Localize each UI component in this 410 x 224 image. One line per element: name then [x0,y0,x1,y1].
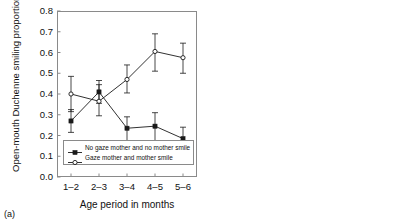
y-tick-label: 0.4 [40,89,53,99]
x-tick-label: 3–4 [119,182,135,192]
panel-a: Open-mouth Duchenne smiling proportion 0… [0,0,205,224]
y-tick-label: 0.1 [40,152,53,162]
panel-a-legend: No gaze mother and no mother smileGaze m… [63,140,194,165]
y-tick-label: 0.0 [40,172,53,182]
x-tick-label: 2–3 [91,182,107,192]
legend-item: Gaze mother and mother smile [67,153,190,162]
y-tick-label: 0.6 [40,48,53,58]
x-tick-label: 5–6 [175,182,191,192]
panel-a-caption: (a) [4,209,15,219]
legend-item-label: Gaze mother and mother smile [83,154,173,161]
y-tick-label: 0.8 [40,6,53,16]
legend-marker-filled-square-icon [67,143,83,152]
legend-item-label: No gaze mother and no mother smile [83,144,190,151]
y-tick-label: 0.5 [40,69,53,79]
panel-a-x-axis-label: Age period in months [57,199,197,210]
figure: Open-mouth Duchenne smiling proportion 0… [0,0,410,224]
y-tick-label: 0.3 [40,110,53,120]
y-tick-label: 0.7 [40,27,53,37]
panel-b: Simple smiling proportion 0.00.10.20.30.… [205,0,410,224]
panel-a-y-axis-label: Open-mouth Duchenne smiling proportion [10,10,21,172]
y-tick-label: 0.2 [40,131,53,141]
x-tick-label: 4–5 [147,182,163,192]
legend-marker-open-circle-icon [67,153,83,162]
legend-item: No gaze mother and no mother smile [67,143,190,152]
x-tick-label: 1–2 [63,182,79,192]
